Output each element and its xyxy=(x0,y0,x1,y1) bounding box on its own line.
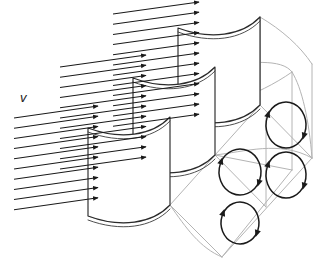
velocity-arrow xyxy=(60,55,146,67)
vortex-arc xyxy=(268,102,306,133)
duct-bottom-rail xyxy=(222,158,312,257)
velocity-arrow-group-lower-group xyxy=(14,106,98,210)
velocity-arrow xyxy=(14,167,98,179)
duct-mid-rail-b xyxy=(215,155,292,170)
velocity-arrow xyxy=(60,65,146,77)
duct-flow-diagram xyxy=(0,0,327,278)
velocity-arrow xyxy=(113,2,199,14)
vortex-arc xyxy=(268,152,306,183)
velocity-arrow xyxy=(14,147,98,159)
velocity-arrow xyxy=(14,157,98,169)
vortex-group xyxy=(217,102,307,244)
vortex-middle-right xyxy=(264,152,307,198)
vortex-upper-right xyxy=(264,102,307,148)
velocity-arrow xyxy=(113,12,199,24)
front-vane xyxy=(88,117,170,227)
velocity-arrow xyxy=(14,188,98,200)
vortex-arc xyxy=(266,167,304,198)
velocity-arrow xyxy=(14,106,98,118)
figure-root: v xyxy=(0,0,327,278)
vortex-middle-left xyxy=(217,149,262,195)
velocity-arrow xyxy=(14,198,98,210)
velocity-label: v xyxy=(20,90,27,105)
duct-diagonal-lower xyxy=(170,205,222,257)
velocity-arrow xyxy=(14,116,98,128)
velocity-arrow xyxy=(14,126,98,138)
velocity-arrow xyxy=(14,177,98,189)
duct-top-rear-edge xyxy=(260,17,312,64)
vortex-arc xyxy=(221,149,261,180)
vortex-arc xyxy=(223,202,259,230)
vortex-arc xyxy=(266,117,304,148)
velocity-arrow xyxy=(14,137,98,149)
